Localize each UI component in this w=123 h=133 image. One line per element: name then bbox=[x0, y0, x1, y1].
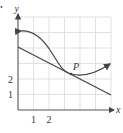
point-p-label: P bbox=[72, 61, 79, 72]
y-tick-1: 1 bbox=[8, 89, 13, 100]
x-tick-1: 1 bbox=[31, 114, 36, 125]
function-curve bbox=[21, 31, 110, 75]
point-p bbox=[70, 73, 73, 76]
grid bbox=[18, 17, 111, 110]
x-tick-2: 2 bbox=[47, 114, 52, 125]
x-axis-label: x bbox=[115, 104, 121, 115]
y-axis-label: y bbox=[14, 3, 20, 14]
y-tick-2: 2 bbox=[8, 74, 13, 85]
graph: P y x 1 2 1 2 bbox=[0, 0, 123, 133]
bullet-dot bbox=[1, 6, 3, 8]
